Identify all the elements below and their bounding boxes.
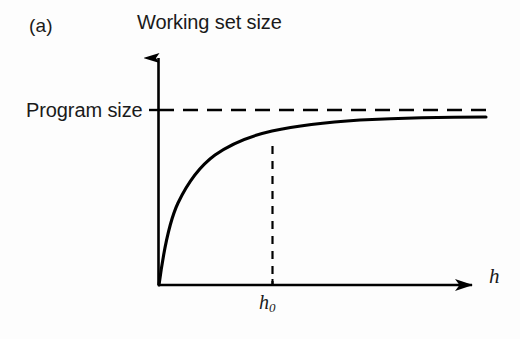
program-size-label: Program size [26, 100, 143, 120]
y-axis-title: Working set size [137, 12, 282, 32]
panel-label: (a) [29, 16, 53, 35]
h0-axis-marker-label: h0 [259, 292, 276, 314]
h0-base: h [259, 291, 269, 313]
figure-panel-a: (a) Working set size Program size h0 h [0, 0, 520, 339]
working-set-curve [159, 117, 486, 285]
h0-subscript: 0 [269, 300, 276, 315]
plot-area [0, 0, 520, 339]
x-axis-title: h [489, 266, 500, 287]
